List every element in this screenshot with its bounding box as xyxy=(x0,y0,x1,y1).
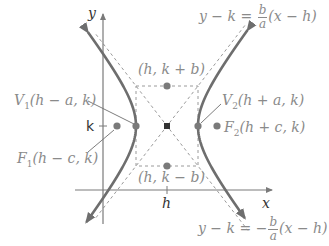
asymptote-lower-sign: − xyxy=(256,220,268,236)
asymptote-upper-fraction: ba xyxy=(258,4,268,30)
asymptote-upper-num: b xyxy=(258,4,268,18)
center-point xyxy=(164,123,170,129)
vertex-left-point xyxy=(132,122,139,129)
asymptote-lower-rhs: (x − h) xyxy=(279,220,327,236)
co-vertex-top-label: (h, k + b) xyxy=(138,62,205,76)
focus-right-label: F2(h + c, k) xyxy=(224,120,305,138)
asymptote-lower-fraction: ba xyxy=(268,216,278,242)
vertex-left-coords: (h − a, k) xyxy=(30,92,96,108)
focus-left-coords: (h − c, k) xyxy=(32,150,98,166)
h-tick-label: h xyxy=(162,196,171,210)
focus-left-label: F1(h − c, k) xyxy=(17,151,98,169)
co-vertex-bottom-label: (h, k − b) xyxy=(138,170,205,184)
asymptote-upper-equation: y − k = ba(x − h) xyxy=(199,4,317,30)
k-tick-label: k xyxy=(86,119,94,133)
vertex-right-label: V2(h + a, k) xyxy=(222,93,304,111)
focus-right-point xyxy=(213,122,220,129)
co-vertex-top-text: (h, k + b) xyxy=(138,61,205,77)
focus-left-name: F xyxy=(17,150,27,166)
asymptote-lower-equation: y − k = −ba(x − h) xyxy=(198,216,328,242)
asymptote-upper-lhs: y − k = xyxy=(199,8,252,24)
co-vertex-bottom-text: (h, k − b) xyxy=(138,169,205,185)
leader-v2 xyxy=(201,104,221,123)
x-axis-label: x xyxy=(262,196,270,210)
vertex-right-point xyxy=(194,122,201,129)
asymptote-upper-rhs: (x − h) xyxy=(268,8,316,24)
asymptote-upper-den: a xyxy=(258,18,268,31)
asymptote-lower-num: b xyxy=(268,216,278,230)
focus-left-point xyxy=(113,122,120,129)
vertex-right-coords: (h + a, k) xyxy=(238,92,304,108)
vertex-right-name: V xyxy=(222,92,232,108)
vertex-left-name: V xyxy=(14,92,24,108)
focus-right-name: F xyxy=(224,119,234,135)
vertex-left-label: V1(h − a, k) xyxy=(14,93,96,111)
asymptote-lower-lhs: y − k = xyxy=(198,220,251,236)
co-vertex-top-point xyxy=(163,82,170,89)
y-axis-label: y xyxy=(88,6,96,20)
focus-right-coords: (h + c, k) xyxy=(239,119,305,135)
asymptote-lower-den: a xyxy=(268,230,278,243)
